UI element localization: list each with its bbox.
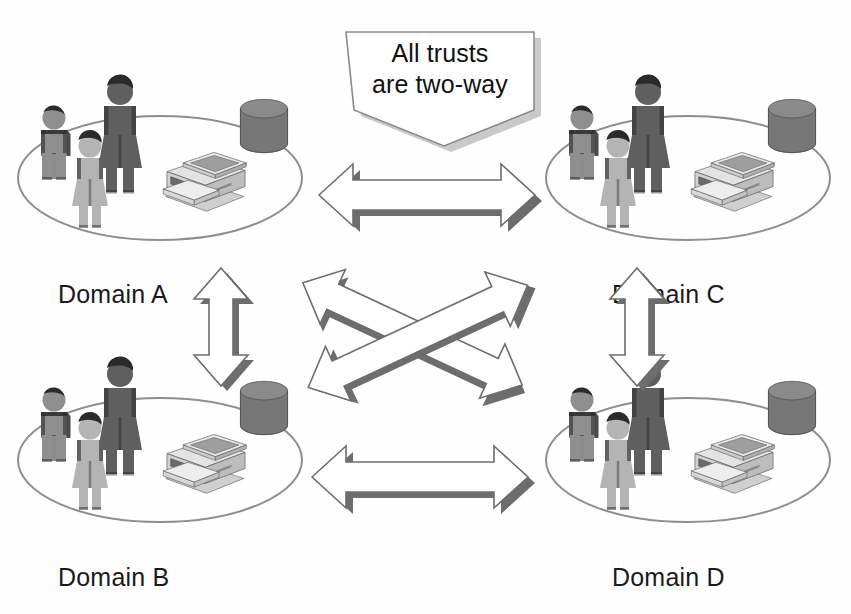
diagram-canvas: Domain A Domain C Domain B Domain D [0, 0, 851, 614]
domain-label-b: Domain B [58, 563, 169, 591]
callout-line-2: are two-way [372, 70, 508, 98]
callout-line-1: All trusts [392, 39, 489, 67]
domain-label-d: Domain D [612, 563, 725, 591]
domain-label-a: Domain A [58, 280, 168, 308]
